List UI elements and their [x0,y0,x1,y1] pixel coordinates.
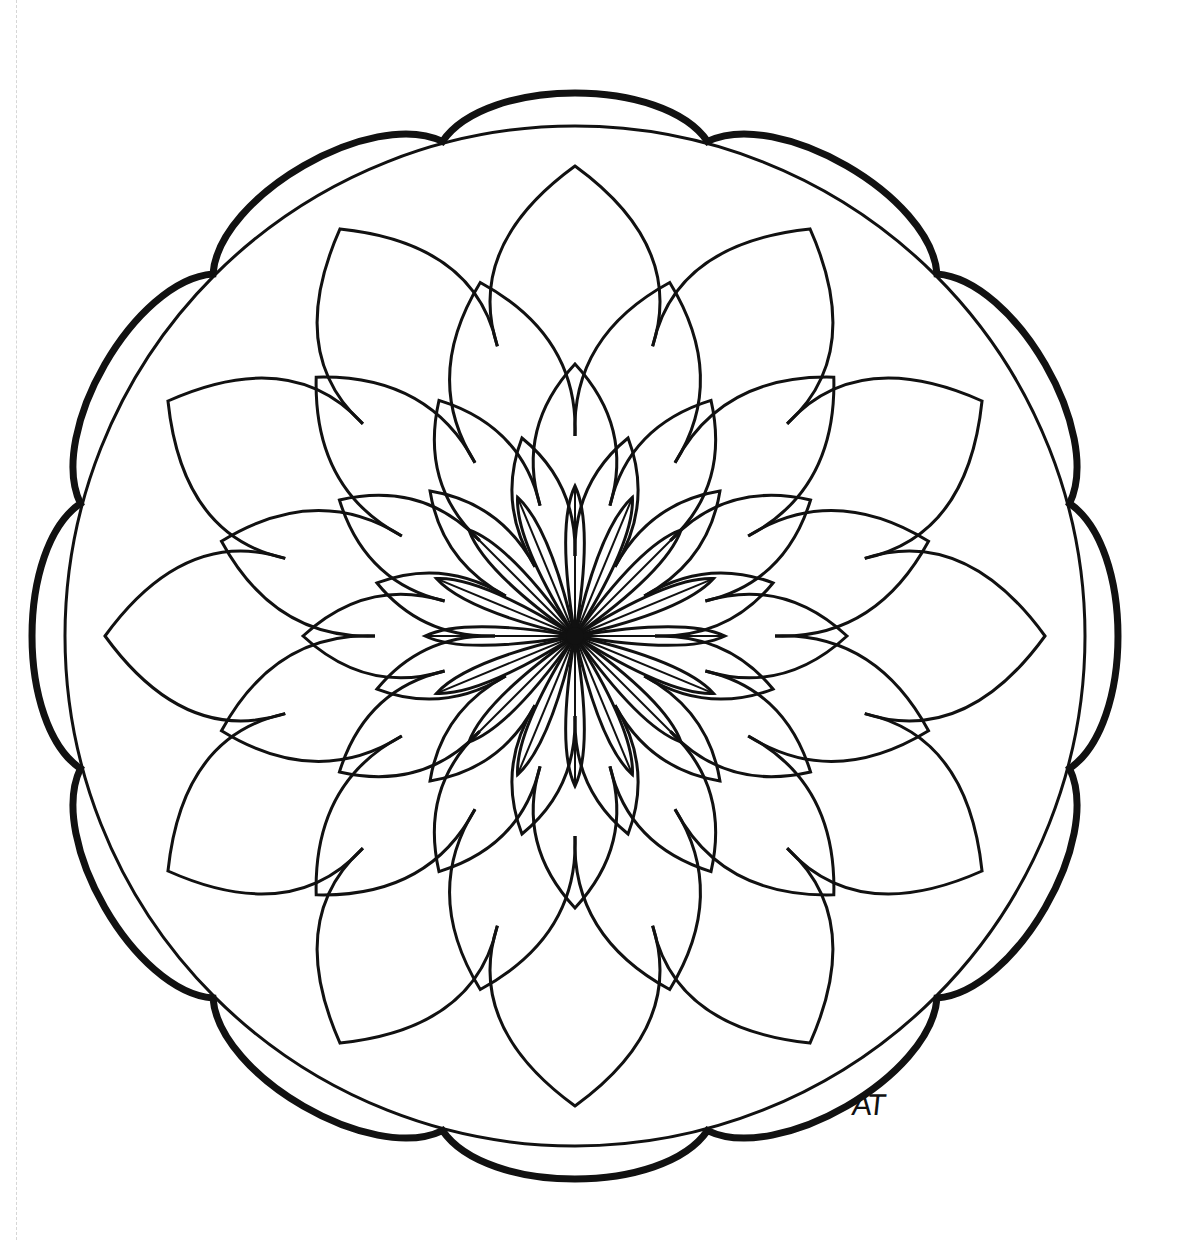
petal [221,511,401,637]
petal [490,926,660,1106]
petal [450,809,576,989]
petal [748,511,928,637]
artist-signature: AT [850,1088,886,1122]
petal [450,282,576,462]
petal [575,282,701,462]
mandala-drawing [0,0,1183,1240]
petal [221,636,401,762]
petal [434,731,540,871]
petal [490,166,660,346]
petal [339,671,479,777]
petal [610,731,716,871]
center-dot [566,627,584,645]
petal [670,671,810,777]
petal [575,809,701,989]
petal [610,400,716,540]
petal [748,636,928,762]
petal [670,495,810,601]
petal [105,551,285,721]
petal [339,495,479,601]
petal [434,400,540,540]
petal [865,551,1045,721]
